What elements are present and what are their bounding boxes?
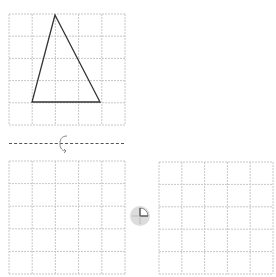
grid-lines [9,14,125,125]
bottom-left-grid [8,160,126,275]
grid-lines [9,161,125,274]
quarter-turn-icon [129,205,151,227]
grid-lines [159,162,273,274]
rotation-arrow-icon [58,134,72,154]
bottom-right-grid [158,161,274,275]
top-grid [8,13,126,126]
